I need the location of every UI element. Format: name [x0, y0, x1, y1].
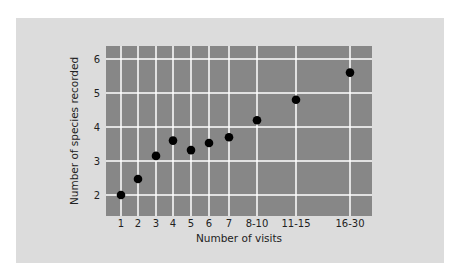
scatter-chart: 23456 12345678-1011-1516-30 Number of vi… — [0, 0, 460, 279]
x-axis-title: Number of visits — [196, 232, 282, 244]
data-point — [134, 175, 143, 184]
x-tick-label: 16-30 — [335, 218, 364, 229]
data-point — [187, 146, 196, 155]
data-point — [205, 139, 214, 148]
x-tick-label: 8-10 — [246, 218, 269, 229]
x-tick-label: 2 — [135, 218, 141, 229]
data-point — [117, 191, 126, 200]
y-tick-labels: 23456 — [94, 54, 100, 201]
x-tick-label: 6 — [206, 218, 212, 229]
y-tick-label: 6 — [94, 54, 100, 65]
data-point — [253, 116, 262, 125]
y-tick-label: 5 — [94, 88, 100, 99]
y-tick-label: 3 — [94, 156, 100, 167]
x-tick-label: 1 — [118, 218, 124, 229]
x-tick-label: 5 — [188, 218, 194, 229]
x-tick-label: 3 — [153, 218, 159, 229]
data-point — [225, 133, 234, 142]
plot-area — [106, 46, 372, 216]
x-tick-labels: 12345678-1011-1516-30 — [118, 218, 365, 229]
data-point — [152, 152, 161, 161]
data-point — [169, 136, 178, 145]
x-tick-label: 11-15 — [281, 218, 310, 229]
data-point — [292, 96, 301, 105]
x-tick-label: 4 — [170, 218, 176, 229]
y-tick-label: 2 — [94, 190, 100, 201]
y-axis-title: Number of species recorded — [68, 57, 80, 205]
data-point — [346, 68, 355, 77]
y-tick-label: 4 — [94, 122, 100, 133]
x-tick-label: 7 — [226, 218, 232, 229]
